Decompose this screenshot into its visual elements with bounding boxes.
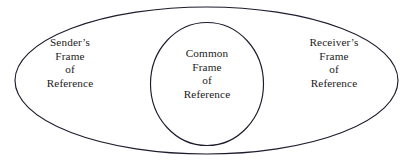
common-label-line-4: Reference — [159, 88, 255, 102]
diagram-canvas: Sender’s Frame of Reference Common Frame… — [0, 0, 412, 165]
common-label-line-2: Frame — [159, 61, 255, 75]
receiver-label-line-3: of — [286, 63, 382, 77]
sender-label-line-3: of — [22, 63, 118, 77]
receiver-label-line-4: Reference — [286, 77, 382, 91]
receiver-frame-of-reference-label: Receiver’s Frame of Reference — [286, 36, 382, 90]
sender-frame-of-reference-label: Sender’s Frame of Reference — [22, 36, 118, 90]
receiver-label-line-1: Receiver’s — [286, 36, 382, 50]
sender-label-line-1: Sender’s — [22, 36, 118, 50]
common-label-line-3: of — [159, 74, 255, 88]
sender-label-line-4: Reference — [22, 77, 118, 91]
common-label-line-1: Common — [159, 47, 255, 61]
receiver-label-line-2: Frame — [286, 50, 382, 64]
common-frame-of-reference-label: Common Frame of Reference — [159, 47, 255, 101]
sender-label-line-2: Frame — [22, 50, 118, 64]
